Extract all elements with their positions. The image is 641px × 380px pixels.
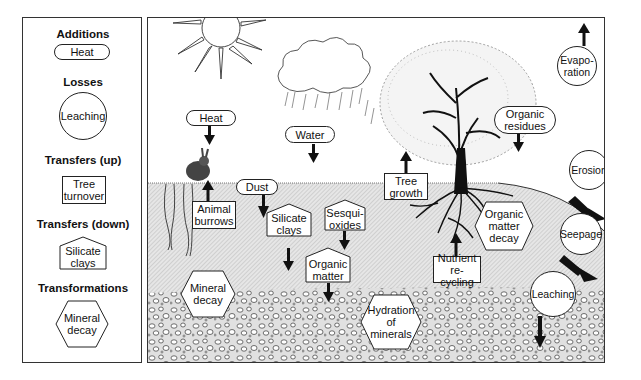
silicate-clays-line2: clays bbox=[276, 224, 301, 236]
hydration-of-minerals-transformation: Hydration of minerals bbox=[360, 294, 422, 350]
nutrient-recycling-line2: re-cycling bbox=[434, 264, 480, 288]
seepage-loss: Seepage bbox=[560, 213, 602, 255]
legend-title-transfers-up: Transfers (up) bbox=[23, 154, 143, 166]
water-label: Water bbox=[296, 129, 325, 141]
legend-transformations-line1: Mineral bbox=[64, 312, 100, 324]
legend-title-transfers-down: Transfers (down) bbox=[23, 218, 143, 230]
hydration-line3: minerals bbox=[370, 328, 412, 340]
legend-additions-label: Heat bbox=[70, 46, 93, 58]
organic-matter-decay-transformation: Organic matter decay bbox=[474, 201, 534, 251]
evaporation-loss: Evapo- ration bbox=[557, 46, 597, 86]
heat-label: Heat bbox=[199, 112, 222, 124]
legend-title-transformations: Transformations bbox=[23, 282, 143, 294]
silicate-clays-transfer: Silicate clays bbox=[266, 211, 312, 237]
legend-additions-pill: Heat bbox=[54, 44, 110, 60]
organic-matter-line2: matter bbox=[312, 270, 343, 282]
legend-transfers-up-rect: Tree turnover bbox=[62, 176, 106, 204]
animal-burrows-line2: burrows bbox=[194, 215, 233, 227]
legend-title-losses: Losses bbox=[23, 76, 143, 88]
organic-matter-transfer: Organic matter bbox=[305, 256, 351, 283]
dust-addition: Dust bbox=[236, 179, 278, 195]
legend-panel: Additions Heat Losses Leaching Transfers… bbox=[22, 17, 142, 363]
heat-addition: Heat bbox=[186, 110, 236, 126]
organic-residues-addition: Organic residues bbox=[494, 106, 556, 134]
legend-transformations-line2: decay bbox=[67, 324, 96, 336]
silicate-clays-line1: Silicate bbox=[271, 212, 306, 224]
sun-icon bbox=[173, 18, 266, 79]
tree-growth-transfer: Tree growth bbox=[384, 173, 428, 200]
leaching-loss: Leaching bbox=[530, 271, 576, 317]
animal-burrows-line1: Animal bbox=[197, 203, 231, 215]
legend-transfers-up-line1: Tree bbox=[73, 178, 95, 190]
legend-transfers-down-line2: clays bbox=[70, 257, 95, 269]
erosion-label: Erosion bbox=[571, 164, 605, 176]
rain-cloud-icon bbox=[278, 37, 374, 124]
legend-transfers-down-line1: Silicate bbox=[65, 245, 100, 257]
seepage-label: Seepage bbox=[560, 228, 602, 240]
rabbit-icon bbox=[186, 148, 210, 181]
nutrient-recycling-transfer: Nutrient re-cycling bbox=[433, 256, 481, 283]
dust-label: Dust bbox=[246, 181, 269, 193]
erosion-loss: Erosion bbox=[569, 150, 605, 190]
nutrient-recycling-line1: Nutrient bbox=[438, 252, 477, 264]
evaporation-line2: ration bbox=[564, 66, 590, 78]
organic-matter-line1: Organic bbox=[309, 258, 348, 270]
organic-residues-line1: Organic bbox=[506, 108, 545, 120]
sesquioxides-line2: oxides bbox=[329, 219, 361, 231]
mineral-decay-line1: Mineral bbox=[190, 282, 226, 294]
legend-title-additions: Additions bbox=[23, 28, 143, 40]
evaporation-line1: Evapo- bbox=[560, 54, 593, 66]
legend-losses-label: Leaching bbox=[61, 110, 106, 122]
organic-matter-decay-line1: Organic bbox=[485, 208, 524, 220]
legend-transfers-down-label: Silicate clays bbox=[59, 244, 107, 270]
mineral-decay-line2: decay bbox=[193, 294, 222, 306]
water-addition: Water bbox=[285, 126, 335, 143]
legend-transfers-up-line2: turnover bbox=[64, 190, 104, 202]
sesquioxides-transfer: Sesqui- oxides bbox=[324, 206, 366, 231]
tree-growth-line2: growth bbox=[389, 187, 422, 199]
organic-matter-decay-line2: matter bbox=[488, 220, 519, 232]
animal-burrows-transfer: Animal burrows bbox=[192, 201, 236, 229]
sesquioxides-line1: Sesqui- bbox=[326, 207, 363, 219]
legend-transformations-label: Mineral decay bbox=[55, 300, 109, 348]
soil-profile-diagram: Heat Water Dust Organic residues Evapo- … bbox=[147, 17, 605, 363]
legend-losses-circle: Leaching bbox=[59, 92, 107, 140]
mineral-decay-transformation: Mineral decay bbox=[180, 270, 236, 318]
organic-residues-line2: residues bbox=[504, 120, 546, 132]
organic-matter-decay-line3: decay bbox=[489, 232, 518, 244]
hydration-line1: Hydration bbox=[367, 304, 414, 316]
hydration-line2: of bbox=[386, 316, 395, 328]
tree-growth-line1: Tree bbox=[395, 175, 417, 187]
leaching-label: Leaching bbox=[532, 288, 575, 300]
